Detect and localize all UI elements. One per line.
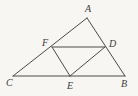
geometry-figure: ABCDEF xyxy=(0,0,138,96)
vertex-label-a: A xyxy=(85,4,91,14)
vertex-label-b: B xyxy=(121,79,127,89)
vertex-label-c: C xyxy=(6,78,13,88)
vertex-label-e: E xyxy=(67,81,73,91)
vertex-label-d: D xyxy=(109,39,116,49)
segment-DE xyxy=(70,47,105,76)
segment-FE xyxy=(52,47,70,76)
vertex-label-f: F xyxy=(42,38,48,48)
